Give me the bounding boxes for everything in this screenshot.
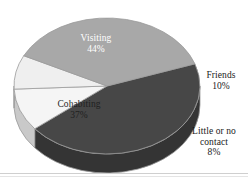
slice-label-little-or-no-contact-line-2: contact [182, 137, 246, 148]
slice-label-cohabiting-name: Cohabiting [41, 99, 117, 110]
slice-label-friends: Friends 10% [196, 70, 246, 91]
slice-label-visiting-name: Visiting [60, 33, 132, 44]
slice-label-friends-percent: 10% [196, 81, 246, 92]
pie-chart-figure: Visiting 44% Cohabiting 37% Friends 10% … [0, 0, 248, 182]
figure-bottom-rule-secondary [0, 176, 248, 177]
slice-label-visiting: Visiting 44% [60, 33, 132, 54]
slice-label-cohabiting-percent: 37% [41, 110, 117, 121]
slice-label-little-or-no-contact-line-1: Little or no [182, 126, 246, 137]
slice-label-little-or-no-contact-percent: 8% [182, 147, 246, 158]
slice-label-visiting-percent: 44% [60, 44, 132, 55]
slice-label-little-or-no-contact: Little or no contact 8% [182, 126, 246, 158]
slice-label-friends-name: Friends [196, 70, 246, 81]
figure-bottom-rule [0, 173, 248, 174]
slice-label-cohabiting: Cohabiting 37% [41, 99, 117, 120]
